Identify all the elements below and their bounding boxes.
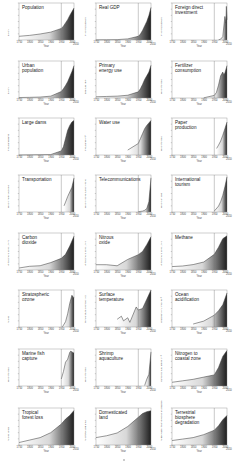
x-tick-label: 1750: [17, 213, 23, 216]
x-tick-label: 1750: [170, 99, 176, 102]
x-axis-label: Year: [44, 450, 49, 453]
x-tick-label: 1900: [125, 99, 131, 102]
x-tick-label: 1850: [115, 213, 121, 216]
x-tick-label: 1900: [48, 387, 54, 390]
x-axis-label: Year: [44, 275, 49, 278]
data-area: [61, 351, 74, 386]
x-tick-label: 1950: [59, 156, 65, 159]
x-tick-label: 1850: [191, 41, 197, 44]
x-tick-label: 1800: [104, 156, 110, 159]
y-axis-label: Million tonnes: [160, 79, 163, 94]
x-axis-label: Year: [121, 45, 126, 48]
x-tick-label: 1800: [180, 271, 186, 274]
y-axis-label: Temperature anomaly (°C): [84, 295, 87, 323]
x-axis-label: Year: [197, 275, 202, 278]
y-axis-label: Million tonnes: [160, 136, 163, 151]
chart-title: Shrimp aquaculture: [99, 351, 123, 361]
x-tick-label: 1750: [94, 446, 100, 449]
y-axis-label: Million motor vehicles: [7, 185, 10, 208]
x-axis-label: Year: [44, 391, 49, 394]
x-tick-label: 1800: [104, 99, 110, 102]
x-tick-label: 1850: [191, 99, 197, 102]
x-tick-label: 2010: [150, 330, 156, 333]
chart-panel: 1750180018501900195020002010YearHydrogen…: [156, 288, 232, 345]
x-tick-label: 1950: [59, 99, 65, 102]
x-tick-label: 2010: [73, 158, 79, 161]
x-tick-label: 2010: [150, 389, 156, 392]
x-tick-label: 1750: [17, 271, 23, 274]
x-tick-label: 1750: [170, 41, 176, 44]
x-tick-label: 1950: [59, 446, 65, 449]
x-axis-label: Year: [44, 103, 49, 106]
x-tick-label: 1850: [115, 446, 121, 449]
chart-panel: 1750180018501900195020002010YearTrillion…: [80, 1, 156, 58]
x-tick-label: 1750: [17, 99, 23, 102]
x-tick-label: 1800: [104, 271, 110, 274]
chart-title: Transportation: [22, 177, 51, 182]
chart-panel: 1750180018501900195020002010Year% lossSt…: [3, 288, 79, 345]
x-tick-label: 1900: [201, 41, 207, 44]
chart-title: Nitrogen to coastal zone: [175, 351, 201, 361]
x-axis-label: Year: [197, 332, 202, 335]
y-axis-label: Atmospheric conc., ppm: [7, 240, 10, 266]
chart-panel: 1750180018501900195020002010YearAtmosphe…: [80, 231, 156, 288]
x-tick-label: 1950: [212, 99, 218, 102]
x-axis-label: Year: [121, 391, 126, 394]
x-tick-label: 1900: [48, 213, 54, 216]
chart-title: Real GDP: [99, 5, 120, 10]
x-tick-label: 2010: [73, 215, 79, 218]
data-area: [145, 352, 151, 386]
x-tick-label: 1800: [27, 271, 33, 274]
x-tick-label: 1950: [212, 213, 218, 216]
x-tick-label: 1750: [17, 446, 23, 449]
x-tick-label: 1850: [38, 156, 44, 159]
x-tick-label: 2010: [226, 101, 232, 104]
x-tick-label: 1950: [59, 387, 65, 390]
chart-panel: 1750180018501900195020002010YearAtmosphe…: [3, 231, 79, 288]
x-tick-label: 1850: [191, 446, 197, 449]
x-tick-label: 1900: [48, 99, 54, 102]
area-chart: [156, 231, 232, 288]
chart-panel: 1750180018501900195020002010YearMillion …: [156, 173, 232, 230]
x-axis-label: Year: [121, 450, 126, 453]
chart-title: Methane: [175, 235, 193, 240]
x-tick-label: 1750: [170, 271, 176, 274]
chart-panel: 1750180018501900195020002010YearTemperat…: [80, 288, 156, 345]
x-tick-label: 1900: [201, 328, 207, 331]
x-tick-label: 1800: [27, 446, 33, 449]
y-axis-label: Atmospheric conc., ppb: [84, 241, 87, 266]
x-tick-label: 1950: [136, 328, 142, 331]
footer-mark: [123, 459, 125, 461]
x-tick-label: 2010: [226, 330, 232, 333]
x-tick-label: 1750: [94, 156, 100, 159]
x-tick-label: 1800: [27, 387, 33, 390]
x-axis-label: Year: [197, 217, 202, 220]
x-tick-label: 1800: [180, 41, 186, 44]
chart-panel: 1750180018501900195020002010Year% decrea…: [156, 406, 232, 463]
x-tick-label: 2010: [150, 158, 156, 161]
y-axis-label: Human N flux, Mtons yr⁻¹: [160, 355, 163, 382]
x-tick-label: 2010: [73, 101, 79, 104]
x-tick-label: 1850: [115, 387, 121, 390]
x-tick-label: 1950: [212, 156, 218, 159]
x-tick-label: 1900: [125, 213, 131, 216]
x-tick-label: 1800: [180, 387, 186, 390]
x-tick-label: 1850: [115, 328, 121, 331]
x-tick-label: 1800: [180, 99, 186, 102]
chart-title: Paper production: [175, 120, 196, 130]
x-tick-label: 1950: [59, 328, 65, 331]
chart-title: Carbon dioxide: [22, 235, 37, 245]
x-tick-label: 2010: [73, 330, 79, 333]
chart-title: Tropical forest loss: [22, 410, 43, 420]
x-tick-label: 2010: [73, 43, 79, 46]
chart-title: Primary energy use: [99, 63, 122, 73]
chart-title: Terrestrial biosphere degradation: [175, 410, 199, 425]
chart-panel: 1750180018501900195020002010YearHuman N …: [156, 347, 232, 404]
x-tick-label: 2010: [150, 215, 156, 218]
chart-panel: 1750180018501900195020002010YearMillion …: [156, 116, 232, 173]
x-tick-label: 1800: [27, 99, 33, 102]
chart-title: Fertilizer consumption: [175, 63, 201, 73]
chart-panel: 1750180018501900195020002010YearMillion …: [80, 347, 156, 404]
x-tick-label: 1950: [136, 41, 142, 44]
x-tick-label: 1900: [125, 387, 131, 390]
